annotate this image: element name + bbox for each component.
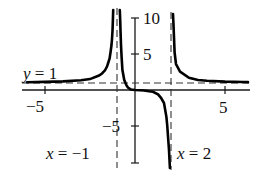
h-asymptote-label: y = 1 — [21, 64, 57, 83]
y-tick-label-10: 10 — [143, 9, 160, 28]
v-asymptote-left-label: x = −1 — [45, 144, 90, 163]
y-tick-label-neg5: −5 — [102, 117, 120, 136]
x-tick-label-5: 5 — [219, 98, 228, 117]
graph-canvas: y = 1 −5 5 10 5 −5 x = −1 x = 2 — [0, 0, 256, 177]
x-tick-label-neg5: −5 — [26, 97, 44, 116]
v-asymptote-right-label: x = 2 — [176, 144, 211, 163]
curve-right-branch — [173, 14, 248, 82]
curve-middle-branch — [120, 10, 170, 168]
y-tick-label-5: 5 — [143, 45, 152, 64]
